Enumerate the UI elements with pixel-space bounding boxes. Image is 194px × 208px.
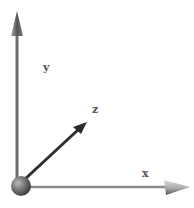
y-arrowhead-icon [11, 11, 23, 36]
y-axis [11, 11, 23, 185]
x-arrowhead-icon [164, 180, 190, 195]
x-axis [22, 180, 190, 195]
axes-diagram: y z x [0, 0, 194, 208]
z-axis-label: z [92, 103, 98, 116]
z-axis [24, 122, 87, 180]
x-axis-label: x [142, 167, 149, 180]
y-axis-label: y [42, 61, 50, 74]
origin-sphere-icon [11, 176, 31, 196]
